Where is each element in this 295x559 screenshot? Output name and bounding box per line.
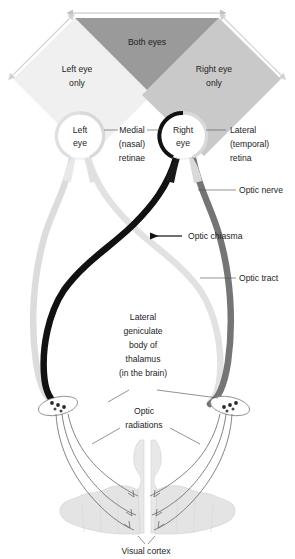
- lgn-label-line3: body of: [129, 340, 158, 350]
- right-eye-only-label-line1: Right eye: [196, 64, 233, 74]
- left-nasal-fiber: [88, 158, 220, 403]
- lateral-retina-label-line1: Lateral: [230, 125, 256, 135]
- medial-retinae-label-line2: (nasal): [119, 139, 145, 149]
- left-eye-label-line1: Left: [73, 125, 88, 135]
- visual-pathway-diagram: Both eyes Left eye only Right eye only L…: [0, 0, 295, 559]
- lgn-label-line5: (in the brain): [119, 368, 167, 378]
- lgn-label-line2: geniculate: [123, 326, 162, 336]
- both-eyes-label: Both eyes: [128, 37, 166, 47]
- optic-radiations-label-line2: radiations: [125, 420, 162, 430]
- optic-radiations-label-line1: Optic: [134, 406, 155, 416]
- lateral-retina-label-line2: (temporal): [230, 139, 269, 149]
- visual-cortex-label: Visual cortex: [121, 546, 171, 556]
- medial-retinae-label-line1: Medial: [119, 125, 144, 135]
- lateral-retina-label-line3: retina: [230, 153, 252, 163]
- right-temporal-fiber: [193, 158, 231, 404]
- left-temporal-fiber: [33, 158, 72, 404]
- medial-retinae-label-line3: retinae: [119, 153, 145, 163]
- right-eye-label-line2: eye: [176, 138, 190, 148]
- right-eye-only-label-line2: only: [206, 78, 222, 88]
- lgn-label-line1: Lateral: [130, 312, 156, 322]
- left-eye-label-line2: eye: [73, 138, 87, 148]
- optic-chiasma-label: Optic chiasma: [188, 231, 243, 241]
- lgn-label-line4: thalamus: [126, 354, 161, 364]
- diagram-canvas: Both eyes Left eye only Right eye only L…: [0, 0, 295, 559]
- right-eye-group: Right eye: [159, 113, 206, 183]
- left-lgn-group: [37, 393, 80, 419]
- optic-nerve-label: Optic nerve: [239, 185, 283, 195]
- optic-tract-label: Optic tract: [239, 273, 279, 283]
- right-eye-label-line1: Right: [173, 125, 194, 135]
- left-eye-only-label-line2: only: [69, 78, 85, 88]
- left-eye-only-label-line1: Left eye: [62, 64, 93, 74]
